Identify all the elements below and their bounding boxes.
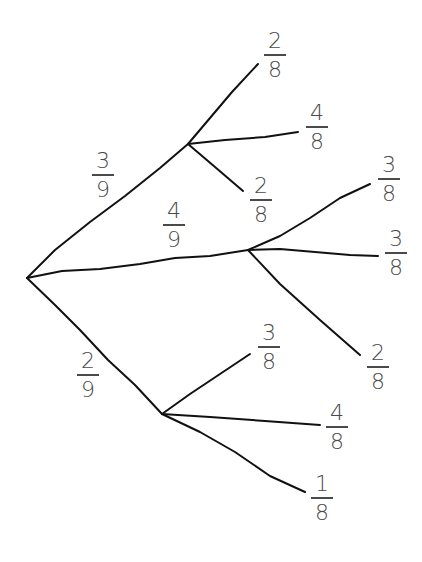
numerator: 2	[369, 342, 387, 364]
probability-label-a1: 2 8	[264, 30, 286, 81]
numerator: 3	[260, 322, 278, 344]
denominator: 8	[252, 204, 270, 226]
probability-label-c2: 4 8	[326, 402, 348, 453]
probability-label-a: 3 9	[92, 150, 114, 201]
fraction-bar	[367, 366, 389, 368]
numerator: 1	[313, 473, 331, 495]
denominator: 8	[313, 502, 331, 524]
denominator: 9	[79, 379, 97, 401]
denominator: 9	[94, 179, 112, 201]
fraction-bar	[264, 54, 286, 56]
branch-c-2	[162, 414, 320, 425]
probability-tree-diagram	[0, 0, 422, 562]
probability-label-c: 2 9	[77, 350, 99, 401]
denominator: 8	[308, 131, 326, 153]
branch-a-1	[188, 64, 258, 144]
fraction-bar	[385, 252, 407, 254]
fraction-bar	[378, 178, 400, 180]
branch-a-2	[188, 132, 298, 144]
numerator: 2	[252, 175, 270, 197]
numerator: 4	[328, 402, 346, 424]
probability-label-b3: 2 8	[367, 342, 389, 393]
probability-label-a3: 2 8	[250, 175, 272, 226]
numerator: 4	[165, 200, 183, 222]
branch-root-to-b	[27, 250, 248, 278]
numerator: 4	[308, 102, 326, 124]
fraction-bar	[250, 199, 272, 201]
probability-label-c1: 3 8	[258, 322, 280, 373]
fraction-bar	[258, 346, 280, 348]
probability-label-b2: 3 8	[385, 228, 407, 279]
fraction-bar	[92, 174, 114, 176]
numerator: 3	[387, 228, 405, 250]
denominator: 8	[380, 183, 398, 205]
branch-c-1	[162, 354, 250, 414]
fraction-bar	[306, 126, 328, 128]
numerator: 3	[94, 150, 112, 172]
branch-c-3	[162, 414, 305, 492]
probability-label-a2: 4 8	[306, 102, 328, 153]
fraction-bar	[77, 374, 99, 376]
denominator: 9	[165, 229, 183, 251]
fraction-bar	[163, 224, 185, 226]
probability-label-c3: 1 8	[311, 473, 333, 524]
numerator: 2	[266, 30, 284, 52]
numerator: 3	[380, 154, 398, 176]
denominator: 8	[328, 431, 346, 453]
branch-a-3	[188, 144, 243, 191]
fraction-bar	[326, 426, 348, 428]
probability-label-b1: 3 8	[378, 154, 400, 205]
branch-b-2	[248, 249, 378, 256]
probability-label-b: 4 9	[163, 200, 185, 251]
denominator: 8	[387, 257, 405, 279]
denominator: 8	[266, 59, 284, 81]
fraction-bar	[311, 497, 333, 499]
denominator: 8	[260, 351, 278, 373]
denominator: 8	[369, 371, 387, 393]
numerator: 2	[79, 350, 97, 372]
